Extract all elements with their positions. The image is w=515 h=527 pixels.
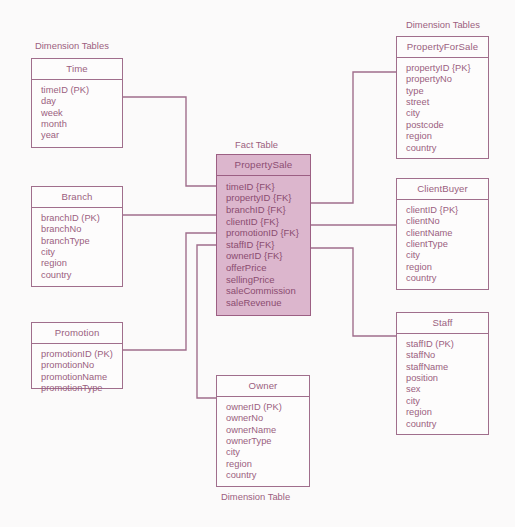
field-row: country bbox=[406, 143, 488, 154]
entity-propertysale[interactable]: PropertySaletimeID {FK}propertyID {FK}br… bbox=[216, 154, 311, 316]
entity-fields-time: timeID (PK)dayweekmonthyear bbox=[32, 80, 122, 147]
caption-fact-table: Fact Table bbox=[235, 140, 278, 149]
entity-title-branch: Branch bbox=[32, 187, 122, 208]
field-row: propertyNo bbox=[406, 74, 488, 85]
field-row: offerPrice bbox=[226, 262, 310, 274]
entity-title-propertysale: PropertySale bbox=[217, 155, 310, 176]
field-row: clientType bbox=[406, 239, 488, 250]
field-row: country bbox=[406, 419, 488, 430]
entity-title-staff: Staff bbox=[397, 313, 488, 334]
connector-owner-to-fact bbox=[197, 245, 216, 398]
entity-fields-clientbuyer: clientID {PK}clientNoclientNameclientTyp… bbox=[397, 200, 488, 290]
field-row: ownerID {FK} bbox=[226, 250, 310, 262]
field-row: clientName bbox=[406, 228, 488, 239]
field-row: city bbox=[41, 247, 122, 258]
connector-fact-to-staff bbox=[311, 248, 396, 336]
entity-fields-propertyforsale: propertyID {PK}propertyNotypestreetcityp… bbox=[397, 58, 488, 160]
field-row: branchID {FK} bbox=[226, 204, 310, 216]
field-row: region bbox=[406, 407, 488, 418]
field-row: region bbox=[226, 459, 309, 470]
field-row: day bbox=[41, 96, 122, 107]
field-row: city bbox=[406, 108, 488, 119]
connector-time-to-fact bbox=[123, 97, 216, 186]
field-row: position bbox=[406, 373, 488, 384]
field-row: promotionNo bbox=[41, 360, 122, 371]
entity-fields-promotion: promotionID (PK)promotionNopromotionName… bbox=[32, 344, 122, 400]
field-row: region bbox=[406, 131, 488, 142]
entity-propertyforsale[interactable]: PropertyForSalepropertyID {PK}propertyNo… bbox=[396, 36, 489, 159]
field-row: city bbox=[406, 250, 488, 261]
caption-dim-table-bottom: Dimension Table bbox=[221, 492, 290, 501]
field-row: clientNo bbox=[406, 216, 488, 227]
entity-time[interactable]: TimetimeID (PK)dayweekmonthyear bbox=[31, 58, 123, 148]
field-row: branchType bbox=[41, 236, 122, 247]
field-row: year bbox=[41, 130, 122, 141]
field-row: street bbox=[406, 97, 488, 108]
field-row: staffName bbox=[406, 362, 488, 373]
field-row: ownerNo bbox=[226, 413, 309, 424]
entity-fields-owner: ownerID (PK)ownerNoownerNameownerTypecit… bbox=[217, 397, 309, 487]
field-row: ownerType bbox=[226, 436, 309, 447]
field-row: clientID {PK} bbox=[406, 205, 488, 216]
entity-title-propertyforsale: PropertyForSale bbox=[397, 37, 488, 58]
field-row: branchID (PK) bbox=[41, 213, 122, 224]
field-row: postcode bbox=[406, 120, 488, 131]
field-row: timeID (PK) bbox=[41, 85, 122, 96]
field-row: country bbox=[406, 273, 488, 284]
entity-title-owner: Owner bbox=[217, 376, 309, 397]
field-row: saleCommission bbox=[226, 285, 310, 297]
field-row: saleRevenue bbox=[226, 297, 310, 309]
entity-fields-staff: staffID (PK)staffNostaffNamepositionsexc… bbox=[397, 334, 488, 436]
connector-fact-to-propertyforsale bbox=[311, 72, 396, 203]
field-row: region bbox=[406, 262, 488, 273]
entity-branch[interactable]: BranchbranchID (PK)branchNobranchTypecit… bbox=[31, 186, 123, 287]
caption-dim-tables-left: Dimension Tables bbox=[35, 41, 109, 50]
field-row: staffID {FK} bbox=[226, 239, 310, 251]
field-row: branchNo bbox=[41, 224, 122, 235]
entity-title-time: Time bbox=[32, 59, 122, 80]
field-row: month bbox=[41, 119, 122, 130]
star-schema-diagram: TimetimeID (PK)dayweekmonthyearBranchbra… bbox=[0, 0, 515, 527]
field-row: sex bbox=[406, 384, 488, 395]
entity-staff[interactable]: StaffstaffID (PK)staffNostaffNamepositio… bbox=[396, 312, 489, 435]
field-row: type bbox=[406, 86, 488, 97]
field-row: city bbox=[226, 447, 309, 458]
caption-dim-tables-right: Dimension Tables bbox=[406, 20, 480, 29]
field-row: clientID {FK} bbox=[226, 216, 310, 228]
field-row: staffID (PK) bbox=[406, 339, 488, 350]
entity-fields-propertysale: timeID {FK}propertyID {FK}branchID {FK}c… bbox=[217, 176, 310, 314]
connector-promotion-to-fact bbox=[123, 233, 216, 350]
field-row: propertyID {FK} bbox=[226, 192, 310, 204]
field-row: country bbox=[226, 470, 309, 481]
field-row: country bbox=[41, 270, 122, 281]
field-row: ownerName bbox=[226, 425, 309, 436]
entity-owner[interactable]: OwnerownerID (PK)ownerNoownerNameownerTy… bbox=[216, 375, 310, 487]
field-row: ownerID (PK) bbox=[226, 402, 309, 413]
field-row: promotionID (PK) bbox=[41, 349, 122, 360]
field-row: timeID {FK} bbox=[226, 181, 310, 193]
entity-clientbuyer[interactable]: ClientBuyerclientID {PK}clientNoclientNa… bbox=[396, 178, 489, 290]
entity-fields-branch: branchID (PK)branchNobranchTypecityregio… bbox=[32, 208, 122, 287]
field-row: region bbox=[41, 258, 122, 269]
field-row: promotionName bbox=[41, 372, 122, 383]
field-row: sellingPrice bbox=[226, 274, 310, 286]
field-row: promotionType bbox=[41, 383, 122, 394]
entity-promotion[interactable]: PromotionpromotionID (PK)promotionNoprom… bbox=[31, 322, 123, 389]
field-row: staffNo bbox=[406, 350, 488, 361]
field-row: city bbox=[406, 396, 488, 407]
field-row: promotionID {FK} bbox=[226, 227, 310, 239]
field-row: propertyID {PK} bbox=[406, 63, 488, 74]
field-row: week bbox=[41, 108, 122, 119]
entity-title-promotion: Promotion bbox=[32, 323, 122, 344]
entity-title-clientbuyer: ClientBuyer bbox=[397, 179, 488, 200]
